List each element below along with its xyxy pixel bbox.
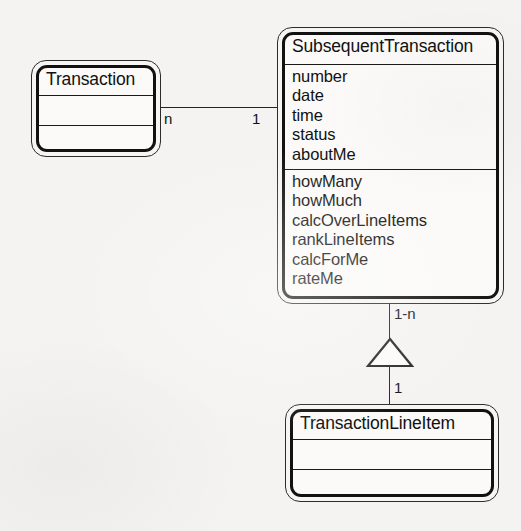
attributes-compartment-subsequent-transaction: numberdatetimestatusaboutMe <box>285 64 496 169</box>
operation-item: calcOverLineItems <box>292 211 489 230</box>
attribute-item: status <box>292 125 489 144</box>
class-box-transaction-line-item[interactable]: TransactionLineItem <box>285 404 499 502</box>
attributes-compartment-transaction-line-item <box>293 439 491 469</box>
multiplicity-1-n: 1-n <box>394 305 415 322</box>
uml-diagram-canvas: n 1 1-n 1 Transaction SubsequentTransact… <box>0 0 521 531</box>
operation-item: rankLineItems <box>292 230 489 249</box>
class-box-subsequent-transaction[interactable]: SubsequentTransaction numberdatetimestat… <box>277 27 504 304</box>
association-line-transaction-subsequent <box>160 107 285 108</box>
operation-list-subsequent-transaction: howManyhowMuchcalcOverLineItemsrankLineI… <box>285 170 496 292</box>
attribute-list-transaction <box>39 96 153 102</box>
operations-compartment-subsequent-transaction: howManyhowMuchcalcOverLineItemsrankLineI… <box>285 169 496 296</box>
aggregation-line-lower <box>389 365 390 406</box>
class-name-transaction: Transaction <box>39 68 153 93</box>
operations-compartment-transaction-line-item <box>293 469 491 494</box>
operation-list-transaction-line-item <box>293 470 491 476</box>
class-name-compartment-transaction: Transaction <box>39 68 153 95</box>
attribute-list-transaction-line-item <box>293 440 491 446</box>
multiplicity-1-aggregation: 1 <box>394 379 402 396</box>
class-name-transaction-line-item: TransactionLineItem <box>293 412 491 437</box>
operation-item: howMany <box>292 172 489 191</box>
aggregation-triangle-icon <box>364 336 416 370</box>
multiplicity-1-assoc: 1 <box>252 110 260 127</box>
class-box-transaction[interactable]: Transaction <box>31 60 161 157</box>
attributes-compartment-transaction <box>39 95 153 125</box>
operation-item: rateMe <box>292 269 489 288</box>
attribute-item: time <box>292 106 489 125</box>
operation-item: calcForMe <box>292 250 489 269</box>
class-name-subsequent-transaction: SubsequentTransaction <box>285 35 496 60</box>
attribute-item: date <box>292 86 489 105</box>
class-inner-transaction-line-item: TransactionLineItem <box>290 409 494 497</box>
attribute-item: aboutMe <box>292 145 489 164</box>
operation-list-transaction <box>39 126 153 132</box>
class-name-compartment-transaction-line-item: TransactionLineItem <box>293 412 491 439</box>
class-name-compartment-subsequent-transaction: SubsequentTransaction <box>285 35 496 64</box>
operations-compartment-transaction <box>39 125 153 149</box>
attribute-item: number <box>292 67 489 86</box>
attribute-list-subsequent-transaction: numberdatetimestatusaboutMe <box>285 65 496 168</box>
operation-item: howMuch <box>292 191 489 210</box>
class-inner-subsequent-transaction: SubsequentTransaction numberdatetimestat… <box>282 32 499 299</box>
multiplicity-n: n <box>164 110 172 127</box>
class-inner-transaction: Transaction <box>36 65 156 152</box>
